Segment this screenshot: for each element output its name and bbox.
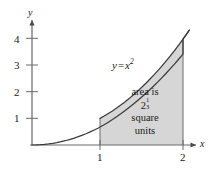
y-tick-label-4: 4 <box>14 34 20 45</box>
area-annotation-line4: units <box>112 125 178 138</box>
area-annotation: area is 213 square units <box>112 86 178 137</box>
mixed-number-fraction: 13 <box>146 98 149 111</box>
area-annotation-line3: square <box>112 112 178 125</box>
fraction-denominator: 3 <box>146 104 149 111</box>
x-axis-arrow <box>191 142 197 147</box>
x-tick-label-2: 2 <box>180 152 186 163</box>
area-annotation-value: 213 <box>112 99 178 113</box>
plot-canvas <box>0 0 219 171</box>
y-tick-label-2: 2 <box>14 87 20 98</box>
area-under-curve-figure: 1 2 3 4 1 2 y x y=x2 area is 213 square … <box>0 0 219 171</box>
x-tick-label-1: 1 <box>97 152 103 163</box>
mixed-number: 213 <box>141 99 150 113</box>
area-annotation-line1: area is <box>112 86 178 99</box>
y-axis-label: y <box>28 8 32 18</box>
y-tick-label-3: 3 <box>14 60 20 71</box>
curve-label-equals: = <box>117 59 125 71</box>
curve-label-exponent: 2 <box>130 57 134 66</box>
x-axis-label: x <box>200 139 204 149</box>
curve-equation-label: y=x2 <box>112 58 134 71</box>
y-axis-arrow <box>29 20 34 26</box>
y-tick-label-1: 1 <box>14 113 20 124</box>
